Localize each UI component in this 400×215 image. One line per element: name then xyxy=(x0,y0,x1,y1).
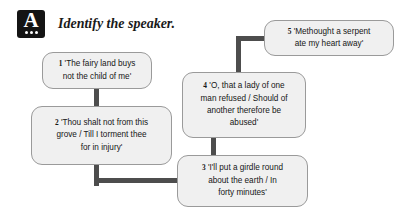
flow-node-5-number: 5 xyxy=(288,27,292,36)
answer-badge-icon: A xyxy=(17,10,45,38)
flow-node-5[interactable]: 5 'Methought a serpent ate my heart away… xyxy=(264,20,394,56)
flow-node-2-text-3: for in injury' xyxy=(37,142,166,154)
connector-node4-node5-vertical xyxy=(236,36,241,73)
flow-node-2[interactable]: 2 'Thou shalt not from this grove / Till… xyxy=(31,106,172,165)
diagram-canvas: A Identify the speaker. 1 'The fairy lan… xyxy=(0,0,400,215)
flow-node-5-line-1: 5 'Methought a serpent xyxy=(270,26,388,38)
flow-node-1-text-1: 'The fairy land buys xyxy=(65,59,136,68)
flow-node-4-number: 4 xyxy=(203,81,207,90)
page-title: Identify the speaker. xyxy=(58,16,175,32)
flow-node-4-text-1: 'O, that a lady of one xyxy=(209,81,284,90)
flow-node-3-text-1: 'I'll put a girdle round xyxy=(208,163,283,172)
connector-node2-node3-horizontal xyxy=(94,178,180,183)
flow-node-4[interactable]: 4 'O, that a lady of one man refused / S… xyxy=(182,72,306,138)
flow-node-3-line-1: 3 'I'll put a girdle round xyxy=(183,162,302,174)
flow-node-3[interactable]: 3 'I'll put a girdle round about the ear… xyxy=(177,155,308,207)
flow-node-2-number: 2 xyxy=(55,118,59,127)
flow-node-4-line-1: 4 'O, that a lady of one xyxy=(188,80,300,92)
flow-node-4-text-4: abused' xyxy=(188,117,300,129)
connector-node4-node3 xyxy=(211,137,216,156)
flow-node-1-text-2: not the child of me' xyxy=(48,71,146,83)
flow-node-1-number: 1 xyxy=(59,59,63,68)
flow-node-4-text-2: man refused / Should of xyxy=(188,93,300,105)
flow-node-2-line-1: 2 'Thou shalt not from this xyxy=(37,117,166,129)
flow-node-5-text-1: 'Methought a serpent xyxy=(294,27,371,36)
flow-node-2-text-1: 'Thou shalt not from this xyxy=(61,118,148,127)
connector-node4-node5-horizontal xyxy=(236,36,267,41)
icon-dots xyxy=(17,31,45,34)
flow-node-1-line-1: 1 'The fairy land buys xyxy=(48,58,146,70)
flow-node-4-text-3: another therefore be xyxy=(188,105,300,117)
connector-node1-node2 xyxy=(94,88,99,107)
flow-node-2-text-2: grove / Till I torment thee xyxy=(37,129,166,141)
icon-letter: A xyxy=(17,9,45,32)
flow-node-5-text-2: ate my heart away' xyxy=(270,38,388,50)
flow-node-3-number: 3 xyxy=(202,163,206,172)
flow-node-3-text-2: about the earth / In xyxy=(183,175,302,187)
flow-node-3-text-3: forty minutes' xyxy=(183,187,302,199)
flow-node-1[interactable]: 1 'The fairy land buys not the child of … xyxy=(42,52,152,89)
